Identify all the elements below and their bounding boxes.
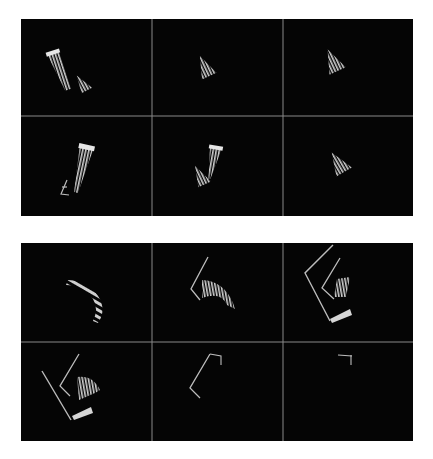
wedge-shape	[72, 407, 93, 420]
outer-bent-line-shape	[42, 371, 71, 420]
striped-triangle-shape	[190, 162, 212, 187]
hook-shape	[338, 355, 352, 356]
striped-triangle-shape	[325, 147, 352, 176]
striped-triangle-shape	[193, 53, 217, 80]
striped-fan-shape	[202, 280, 235, 309]
panel-bottom-3	[305, 245, 352, 323]
striped-fan-shape	[77, 377, 100, 400]
panel-top-6	[325, 147, 352, 176]
striped-triangle-shape	[73, 72, 92, 94]
outer-bent-line-shape	[305, 245, 333, 321]
wedge-shape	[330, 309, 352, 323]
panel-top-4	[61, 143, 95, 195]
panel-top-2	[193, 53, 217, 80]
striped-bar-shape	[46, 49, 72, 93]
hook-shape	[210, 354, 221, 365]
panel-bottom-1	[66, 280, 102, 323]
figure-grid-top	[21, 19, 413, 216]
striped-fan-shape	[66, 280, 102, 323]
panel-bottom-5	[190, 354, 221, 398]
inner-bent-line-shape	[60, 354, 79, 396]
striped-bar-shape	[203, 144, 223, 180]
striped-block-shape	[334, 277, 350, 297]
bent-line-shape	[190, 354, 210, 398]
panel-top-5	[190, 144, 224, 187]
striped-bar-shape	[69, 143, 95, 194]
panel-top-3	[319, 45, 345, 74]
figure-block-top	[21, 19, 413, 216]
panel-bottom-6	[338, 355, 352, 365]
panel-bottom-2	[191, 257, 235, 309]
figure-block-bottom	[21, 243, 413, 441]
striped-triangle-shape	[319, 45, 345, 74]
panel-bottom-4	[42, 354, 100, 420]
figure-grid-bottom	[21, 243, 413, 441]
panel-top-1	[46, 49, 93, 94]
